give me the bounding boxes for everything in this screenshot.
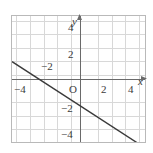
coordinate-plane-figure: y x O −4 −2 2 4 4 2 −2 −4 — [0, 0, 153, 153]
y-tick-label-neg4: −4 — [61, 129, 73, 140]
x-tick-label-pos2: 2 — [101, 84, 107, 95]
plot-frame — [11, 15, 146, 143]
y-tick-label-pos2: 2 — [68, 49, 74, 60]
origin-label: O — [69, 84, 77, 95]
x-axis-label: x — [138, 76, 143, 87]
y-tick-label-neg2: −2 — [61, 103, 73, 114]
x-tick-label-neg4: −4 — [14, 84, 26, 95]
plotted-line — [12, 62, 143, 142]
x-tick-label-neg2: −2 — [41, 61, 53, 72]
plotted-line-layer — [12, 16, 145, 142]
y-tick-label-pos4: 4 — [68, 22, 74, 33]
x-tick-label-pos4: 4 — [128, 84, 134, 95]
